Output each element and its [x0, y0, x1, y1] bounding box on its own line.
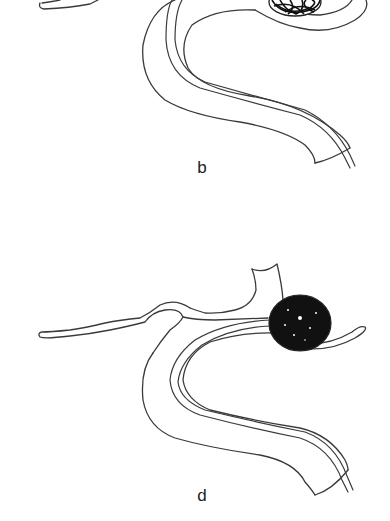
panel-label-d: d	[192, 486, 212, 506]
panel-b: b	[0, 0, 390, 200]
vessel-cut-end	[315, 148, 350, 163]
panel-label-b: b	[192, 158, 212, 178]
parent-vessel-outer-wall	[143, 0, 315, 163]
catheter	[166, 0, 350, 168]
left-branch-vessel	[39, 302, 190, 353]
vessel-diagram-d	[0, 250, 390, 521]
branch-vessel	[40, 0, 99, 9]
aneurysm-coil-d	[269, 295, 331, 351]
aneurysm-coil-b	[269, 0, 321, 16]
parent-vessel-outer-wall	[142, 353, 315, 495]
panel-d: d	[0, 250, 390, 521]
parent-vessel-inner-wall	[183, 333, 348, 470]
